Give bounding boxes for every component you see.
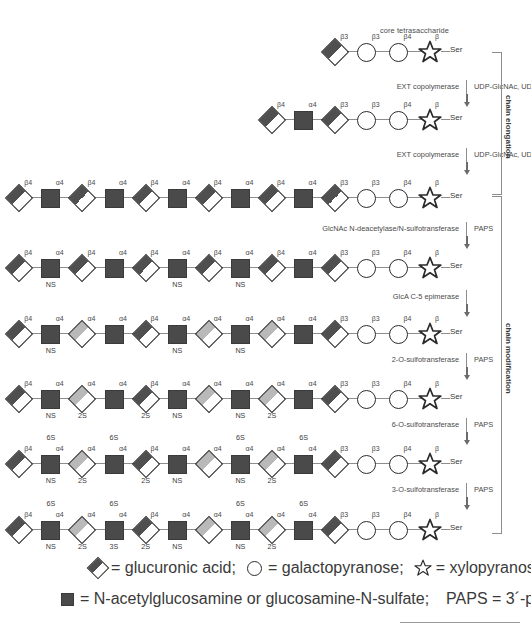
residue-glcn bbox=[39, 322, 63, 346]
glucuronic-acid-icon bbox=[321, 320, 349, 348]
linkage-label: α4 bbox=[182, 179, 190, 186]
linkage-label: β4 bbox=[87, 249, 95, 256]
residue-glcn bbox=[165, 387, 189, 411]
serine-label: Ser bbox=[450, 113, 462, 122]
modification-label-below: NS bbox=[167, 346, 187, 355]
linkage-label: α4 bbox=[309, 179, 317, 186]
galactopyranose-icon bbox=[389, 111, 408, 130]
step-enzyme-label: EXT copolymerase bbox=[397, 82, 459, 91]
linkage-label: α4 bbox=[182, 511, 190, 518]
linkage-label: β3 bbox=[372, 315, 380, 322]
residue-gal bbox=[386, 387, 410, 411]
linkage-label: α4 bbox=[214, 445, 222, 452]
glucosamine-icon bbox=[41, 189, 60, 208]
linkage-label: α4 bbox=[309, 511, 317, 518]
iduronic-acid-icon bbox=[68, 516, 96, 544]
step-arrow-icon bbox=[466, 94, 468, 103]
residue-gal bbox=[386, 40, 410, 64]
linkage-label: α4 bbox=[309, 101, 317, 108]
glucuronic-acid-icon bbox=[68, 184, 96, 212]
star-icon bbox=[414, 559, 432, 577]
glucosamine-icon bbox=[105, 259, 124, 278]
serine-label: Ser bbox=[450, 261, 462, 270]
iduronic-acid-icon bbox=[195, 516, 223, 544]
residue-gal bbox=[355, 322, 379, 346]
step-divider bbox=[466, 290, 467, 305]
residue-glcn bbox=[228, 322, 252, 346]
linkage-label: α4 bbox=[309, 315, 317, 322]
linkage-label: α4 bbox=[277, 315, 285, 322]
glucuronic-acid-icon bbox=[131, 254, 159, 282]
linkage-label: β4 bbox=[151, 445, 159, 452]
modification-label-below: NS bbox=[41, 411, 61, 420]
linkage-label: β4 bbox=[403, 179, 411, 186]
residue-xyl bbox=[418, 256, 442, 280]
glucosamine-icon bbox=[231, 189, 250, 208]
galactopyranose-icon bbox=[357, 259, 376, 278]
linkage-label: β4 bbox=[24, 249, 32, 256]
linkage-label: β bbox=[435, 179, 439, 186]
residue-glca bbox=[323, 518, 347, 542]
residue-glca bbox=[323, 322, 347, 346]
residue-gal bbox=[355, 387, 379, 411]
residue-gal bbox=[355, 108, 379, 132]
linkage-label: α4 bbox=[245, 445, 253, 452]
step-cofactor-label: PAPS bbox=[474, 485, 493, 494]
glucuronic-acid-icon bbox=[68, 254, 96, 282]
residue-idoa bbox=[260, 452, 284, 476]
linkage-label: β4 bbox=[214, 249, 222, 256]
xylopyranose-icon bbox=[418, 186, 442, 210]
residue-glcn bbox=[292, 452, 316, 476]
residue-xyl bbox=[418, 40, 442, 64]
step-divider bbox=[466, 148, 467, 163]
iduronic-acid-icon bbox=[258, 516, 286, 544]
iduronic-acid-icon bbox=[68, 320, 96, 348]
linkage-label: α4 bbox=[277, 511, 285, 518]
modification-label-above: 6S bbox=[294, 433, 314, 442]
linkage-label: β4 bbox=[151, 315, 159, 322]
step-enzyme-label: EXT copolymerase bbox=[397, 150, 459, 159]
glucuronic-acid-icon bbox=[5, 385, 33, 413]
linkage-label: β3 bbox=[340, 380, 348, 387]
glucuronic-acid-icon bbox=[321, 184, 349, 212]
linkage-label: α4 bbox=[309, 249, 317, 256]
legend-row-1: = glucuronic acid; = galactopyranose; = … bbox=[88, 559, 531, 577]
linkage-label: β bbox=[435, 249, 439, 256]
step-arrow-icon bbox=[466, 236, 468, 245]
residue-glcn bbox=[228, 518, 252, 542]
residue-glcn bbox=[165, 186, 189, 210]
step-arrow-icon bbox=[466, 432, 468, 441]
glucosamine-icon bbox=[41, 325, 60, 344]
residue-glca bbox=[7, 186, 31, 210]
residue-idoa bbox=[197, 452, 221, 476]
residue-glcn bbox=[165, 452, 189, 476]
glucuronic-acid-icon bbox=[131, 320, 159, 348]
linkage-label: β4 bbox=[214, 179, 222, 186]
linkage-label: β3 bbox=[340, 249, 348, 256]
residue-glcn bbox=[292, 256, 316, 280]
linkage-label: α4 bbox=[182, 380, 190, 387]
residue-idoa bbox=[70, 518, 94, 542]
linkage-label: β3 bbox=[340, 33, 348, 40]
ser-bond bbox=[441, 398, 450, 399]
linkage-label: α4 bbox=[309, 380, 317, 387]
iduronic-acid-icon bbox=[195, 320, 223, 348]
ser-bond bbox=[441, 119, 450, 120]
step-cofactor-label: UDP-GlcNAc, UDP-GlcA bbox=[474, 82, 531, 91]
galactopyranose-icon bbox=[357, 455, 376, 474]
linkage-label: α4 bbox=[214, 511, 222, 518]
residue-xyl bbox=[418, 108, 442, 132]
residue-gal bbox=[355, 40, 379, 64]
linkage-label: β4 bbox=[151, 249, 159, 256]
residue-xyl bbox=[418, 387, 442, 411]
linkage-label: β bbox=[435, 445, 439, 452]
legend-text-paps: PAPS = 3´-phosphoadenosine-5´-phosphosul… bbox=[446, 590, 531, 608]
modification-label-below: NS bbox=[230, 411, 250, 420]
bracket-label-chain-elongation: chain elongation bbox=[504, 95, 512, 159]
linkage-label: α4 bbox=[119, 445, 127, 452]
step-enzyme-label: 2-O-sulfotransferase bbox=[392, 355, 459, 364]
residue-glca bbox=[323, 387, 347, 411]
linkage-label: α4 bbox=[119, 179, 127, 186]
residue-glcn bbox=[228, 452, 252, 476]
linkage-label: α4 bbox=[56, 380, 64, 387]
